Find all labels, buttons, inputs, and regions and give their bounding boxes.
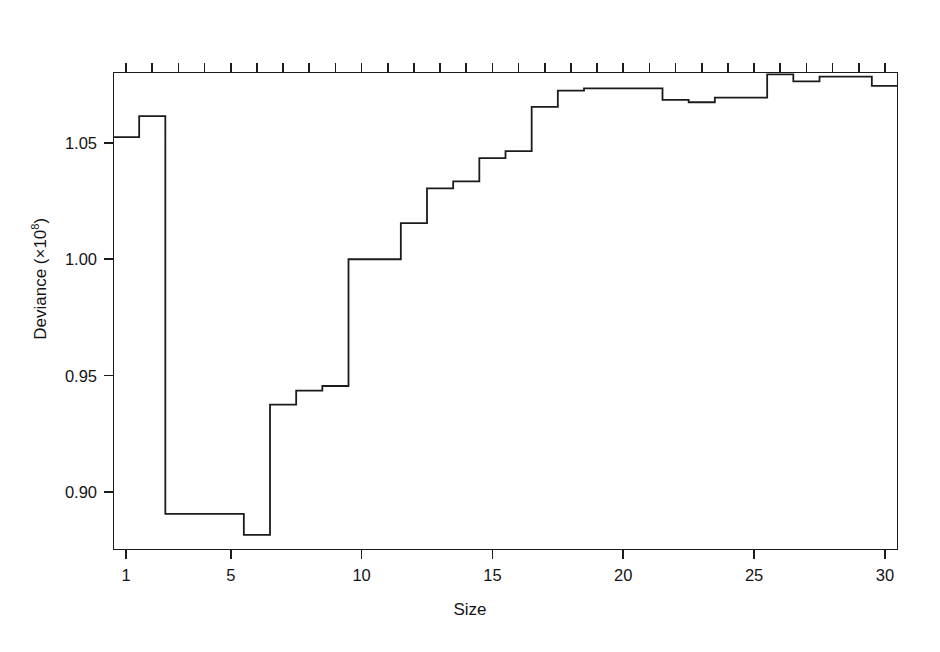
y-axis-tick [104, 258, 113, 260]
x-axis-tick [125, 550, 127, 559]
top-axis-tick [492, 63, 494, 72]
top-axis-tick [308, 63, 310, 72]
x-axis-tick-label: 25 [745, 566, 763, 585]
x-axis-tick [361, 550, 363, 559]
x-axis-tick-label: 1 [121, 566, 130, 585]
top-axis-tick [806, 63, 808, 72]
x-axis-tick [492, 550, 494, 559]
y-axis-tick [104, 142, 113, 144]
y-axis-title-text: Deviance (×10 [31, 230, 50, 340]
top-axis-tick [649, 63, 651, 72]
top-axis-tick [335, 63, 337, 72]
x-axis-tick-label: 5 [226, 566, 235, 585]
top-axis-tick [884, 63, 886, 72]
x-axis-tick-label: 20 [614, 566, 632, 585]
top-axis-tick [439, 63, 441, 72]
top-axis-tick [832, 63, 834, 72]
x-axis-tick [753, 550, 755, 559]
top-axis-tick [701, 63, 703, 72]
top-axis-tick [544, 63, 546, 72]
y-axis-tick [104, 375, 113, 377]
top-axis-tick [779, 63, 781, 72]
y-axis-tick [104, 491, 113, 493]
top-axis-tick [256, 63, 258, 72]
deviance-vs-size-chart: 8400000290000013000009900007300007000002… [0, 0, 940, 652]
top-axis-tick [178, 63, 180, 72]
top-axis-tick [675, 63, 677, 72]
x-axis-tick [230, 550, 232, 559]
y-axis-tick-label: 0.90 [65, 482, 97, 501]
x-axis-tick-label: 15 [483, 566, 501, 585]
top-axis-tick [596, 63, 598, 72]
x-axis-tick-label: 10 [352, 566, 370, 585]
top-axis-tick [727, 63, 729, 72]
x-axis-tick-label: 30 [876, 566, 894, 585]
top-axis-tick [282, 63, 284, 72]
top-axis-tick [125, 63, 127, 72]
y-axis-title: Deviance (×108) [29, 79, 51, 479]
top-axis-tick [518, 63, 520, 72]
y-axis-title-suffix: ) [31, 218, 50, 224]
top-axis-tick [413, 63, 415, 72]
y-axis-tick-label: 0.95 [65, 366, 97, 385]
x-axis-title: Size [0, 600, 940, 620]
top-axis-tick [387, 63, 389, 72]
top-axis-tick [622, 63, 624, 72]
deviance-step-line [113, 74, 898, 535]
y-axis-tick-label: 1.00 [65, 250, 97, 269]
y-axis-title-exponent: 8 [29, 224, 41, 230]
step-line-plot [113, 72, 898, 550]
top-axis-tick [570, 63, 572, 72]
top-axis-tick [753, 63, 755, 72]
top-axis-tick [151, 63, 153, 72]
top-axis-tick [230, 63, 232, 72]
y-axis-tick-label: 1.05 [65, 133, 97, 152]
x-axis-tick [884, 550, 886, 559]
top-axis-tick [465, 63, 467, 72]
top-axis-tick [361, 63, 363, 72]
top-axis-tick [858, 63, 860, 72]
top-axis-tick [204, 63, 206, 72]
x-axis-tick [622, 550, 624, 559]
